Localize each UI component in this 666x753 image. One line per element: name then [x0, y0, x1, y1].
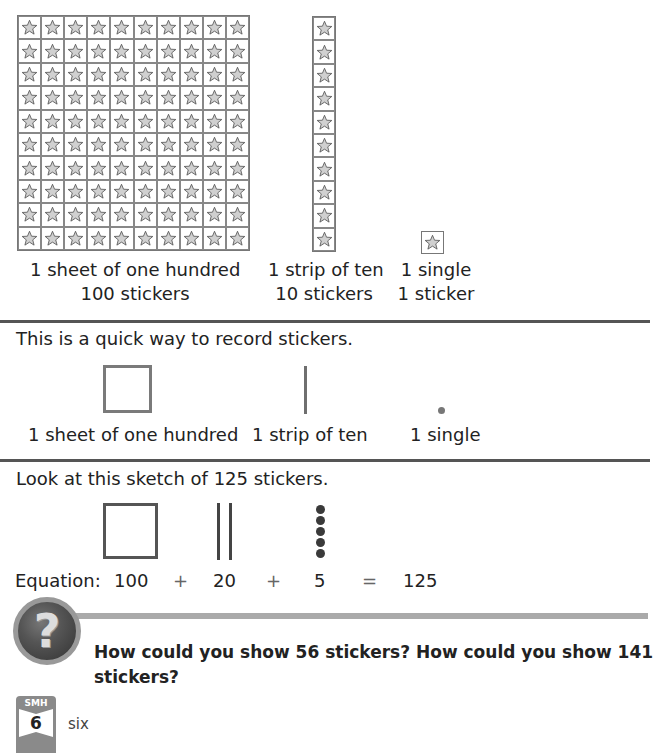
sticker-cell	[41, 156, 64, 179]
star-icon	[160, 160, 177, 177]
sticker-cell	[18, 16, 41, 39]
one-symbol-dot	[438, 407, 445, 414]
sticker-cell	[41, 203, 64, 226]
equation-term-hundreds: 100	[114, 570, 148, 591]
sticker-cell	[64, 156, 87, 179]
star-icon	[113, 113, 130, 130]
star-icon	[183, 160, 200, 177]
star-icon	[183, 43, 200, 60]
sticker-cell	[110, 39, 133, 62]
sticker-cell	[226, 227, 249, 250]
sketch-hundred-square	[103, 503, 158, 559]
star-icon	[21, 206, 38, 223]
sticker-cell	[64, 133, 87, 156]
sticker-cell	[134, 16, 157, 39]
star-icon	[44, 136, 61, 153]
star-icon	[316, 114, 333, 131]
star-icon	[90, 43, 107, 60]
star-icon	[229, 113, 246, 130]
sticker-cell	[18, 156, 41, 179]
star-icon	[44, 160, 61, 177]
star-icon	[67, 89, 84, 106]
star-icon	[160, 19, 177, 36]
sticker-cell	[157, 63, 180, 86]
star-icon	[316, 184, 333, 201]
star-icon	[316, 44, 333, 61]
star-icon	[316, 207, 333, 224]
hundred-symbol-square	[103, 365, 152, 413]
sticker-cell	[313, 111, 335, 134]
star-icon	[44, 89, 61, 106]
star-icon	[183, 113, 200, 130]
sticker-cell	[226, 110, 249, 133]
ten-label-line1: 1 strip of ten	[268, 258, 380, 282]
sticker-cell	[110, 203, 133, 226]
star-icon	[137, 160, 154, 177]
star-icon	[44, 113, 61, 130]
sticker-cell	[64, 16, 87, 39]
sticker-cell	[110, 86, 133, 109]
sticker-cell	[157, 86, 180, 109]
sticker-cell	[110, 133, 133, 156]
sticker-cell	[18, 227, 41, 250]
star-icon	[137, 230, 154, 247]
sticker-cell	[226, 39, 249, 62]
sticker-cell	[313, 40, 335, 63]
smh-page-badge: SMH 6	[16, 696, 56, 753]
sticker-cell	[110, 110, 133, 133]
sketch-ones-dots	[316, 505, 325, 561]
sticker-cell	[134, 110, 157, 133]
sticker-cell	[110, 63, 133, 86]
star-icon	[67, 230, 84, 247]
sticker-cell	[313, 228, 335, 251]
star-icon	[206, 113, 223, 130]
sticker-cell	[87, 180, 110, 203]
star-icon	[183, 206, 200, 223]
sticker-cell	[226, 133, 249, 156]
star-icon	[183, 183, 200, 200]
sticker-cell	[87, 156, 110, 179]
star-icon	[113, 206, 130, 223]
single-label-line1: 1 single	[396, 258, 476, 282]
sticker-cell	[313, 204, 335, 227]
sticker-cell	[18, 86, 41, 109]
sticker-cell	[134, 203, 157, 226]
sticker-cell	[41, 39, 64, 62]
star-icon	[21, 183, 38, 200]
star-icon	[67, 136, 84, 153]
ten-label: 1 strip of ten 10 stickers	[268, 258, 380, 306]
sticker-cell	[157, 39, 180, 62]
sticker-cell	[18, 180, 41, 203]
star-icon	[21, 113, 38, 130]
star-icon	[206, 206, 223, 223]
section-divider	[0, 320, 650, 323]
sticker-cell	[41, 227, 64, 250]
star-icon	[137, 66, 154, 83]
star-icon	[113, 183, 130, 200]
sticker-cell	[180, 227, 203, 250]
sticker-cell	[87, 133, 110, 156]
star-icon	[137, 183, 154, 200]
star-icon	[183, 89, 200, 106]
sticker-cell	[64, 39, 87, 62]
hundred-label-line1: 1 sheet of one hundred	[30, 258, 240, 282]
equation-label: Equation:	[15, 570, 101, 591]
star-icon	[316, 20, 333, 37]
sketch-one-dot	[316, 538, 325, 547]
star-icon	[206, 136, 223, 153]
sticker-cell	[64, 86, 87, 109]
star-icon	[67, 43, 84, 60]
star-icon	[21, 66, 38, 83]
sticker-cell	[157, 156, 180, 179]
star-icon	[67, 19, 84, 36]
star-icon	[424, 234, 441, 251]
sticker-cell	[180, 110, 203, 133]
sticker-cell	[203, 156, 226, 179]
sticker-cell	[180, 133, 203, 156]
sticker-cell	[18, 110, 41, 133]
star-icon	[44, 183, 61, 200]
sketch-intro: Look at this sketch of 125 stickers.	[16, 468, 328, 489]
star-icon	[160, 113, 177, 130]
equation-equals: =	[362, 570, 377, 591]
sticker-cell	[313, 64, 335, 87]
